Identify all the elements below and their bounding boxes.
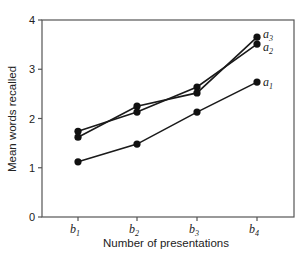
- series-label-a3: a3: [263, 27, 273, 43]
- data-point: [193, 89, 200, 96]
- series-group: a1a2a3: [74, 27, 273, 165]
- series-a1: a1: [74, 75, 273, 165]
- data-point: [133, 141, 140, 148]
- x-tick-label-b2: b2: [129, 222, 139, 238]
- series-a2: a2: [74, 40, 273, 135]
- y-tick-label: 1: [29, 162, 35, 174]
- plot-border: [42, 20, 294, 217]
- y-tick-label: 2: [29, 113, 35, 125]
- data-point: [253, 79, 260, 86]
- data-point: [74, 158, 81, 165]
- x-axis-title: Number of presentations: [103, 237, 229, 249]
- series-label-a1: a1: [263, 75, 273, 91]
- line-a2: [78, 44, 257, 131]
- y-axis: 01234: [29, 14, 42, 223]
- y-axis-title: Mean words recalled: [6, 66, 18, 172]
- plot-frame: [42, 20, 294, 217]
- y-tick-label: 0: [29, 211, 35, 223]
- line-chart: 01234 b1b2b3b4 a1a2a3 Number of presenta…: [0, 0, 304, 261]
- y-tick-label: 3: [29, 63, 35, 75]
- data-point: [193, 109, 200, 116]
- line-a3: [78, 37, 257, 137]
- data-point: [133, 103, 140, 110]
- y-tick-label: 4: [29, 14, 35, 26]
- x-tick-label-b4: b4: [249, 222, 259, 238]
- data-point: [74, 134, 81, 141]
- x-tick-label-b3: b3: [189, 222, 199, 238]
- x-tick-label-b1: b1: [70, 222, 80, 238]
- x-axis: b1b2b3b4: [70, 217, 259, 238]
- data-point: [253, 34, 260, 41]
- data-point: [253, 41, 260, 48]
